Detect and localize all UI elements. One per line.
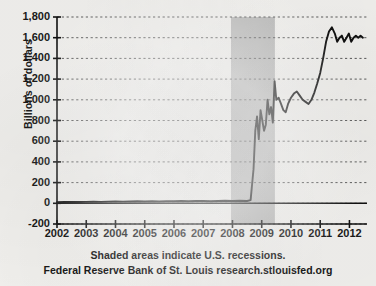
chart-container: Billions of dollars 1,8001,6001,4001,200… bbox=[0, 0, 376, 286]
source-footnote: Federal Reserve Bank of St. Louis resear… bbox=[0, 265, 376, 276]
gridlines bbox=[57, 17, 367, 224]
series-line bbox=[57, 27, 363, 202]
data-series bbox=[57, 27, 363, 202]
x-tick-label: 2012 bbox=[327, 228, 371, 239]
recessions-footnote: Shaded areas indicate U.S. recessions. bbox=[0, 250, 376, 261]
plot-area bbox=[0, 0, 376, 286]
